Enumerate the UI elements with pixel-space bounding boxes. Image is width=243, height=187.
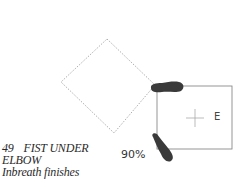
caption-subtitle: Inbreath finishes (2, 166, 88, 178)
left-foot-icon (151, 82, 184, 93)
figure-caption: 49FIST UNDER ELBOW Inbreath finishes (2, 142, 88, 178)
breath-percentage: 90% (121, 148, 145, 161)
current-position-square (157, 86, 232, 149)
center-cross-icon (186, 109, 204, 127)
right-foot-icon (152, 133, 173, 161)
east-direction-label: E (214, 111, 220, 122)
previous-position-diamond (61, 39, 155, 133)
